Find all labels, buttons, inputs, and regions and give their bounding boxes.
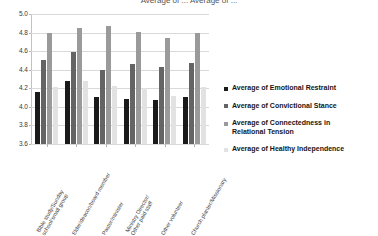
y-tick-mark — [29, 51, 31, 52]
bar-group — [32, 14, 62, 144]
bar — [165, 38, 170, 144]
bar — [130, 64, 135, 144]
bar — [195, 33, 200, 144]
bar — [77, 28, 82, 144]
plot-area: 3.63.84.04.24.44.64.85.0 — [31, 14, 209, 145]
bar — [171, 96, 176, 144]
bar-group — [62, 14, 92, 144]
bar-group — [121, 14, 151, 144]
y-tick-mark — [29, 125, 31, 126]
y-tick-label: 5.0 — [19, 11, 28, 18]
y-tick-label: 4.0 — [19, 104, 28, 111]
y-tick-mark — [29, 107, 31, 108]
bar — [94, 97, 99, 144]
bar — [201, 87, 206, 144]
legend-label: Average of Connectedness inRelational Te… — [232, 119, 330, 136]
legend-swatch-icon — [224, 148, 228, 152]
bar — [189, 63, 194, 144]
category-label: Ministry Director/Other paid staff — [125, 193, 157, 236]
legend-label: Average of Healthy Independence — [232, 145, 344, 154]
bar — [47, 33, 52, 144]
bar-groups — [32, 14, 209, 144]
category-label: Other volunteer — [160, 200, 185, 236]
bar — [159, 67, 164, 144]
bar — [41, 60, 46, 144]
y-tick-label: 4.4 — [19, 66, 28, 73]
y-tick-label: 4.6 — [19, 48, 28, 55]
bar — [65, 81, 70, 144]
legend-swatch-icon — [224, 104, 228, 108]
y-tick-mark — [29, 33, 31, 34]
legend: Average of Emotional RestraintAverage of… — [224, 84, 376, 163]
bar — [100, 70, 105, 144]
bar — [35, 92, 40, 144]
bar — [183, 97, 188, 144]
category-label: Pastor/minister — [100, 201, 124, 236]
category-label: Bible study/Sundayschool/small group — [36, 188, 71, 236]
bar — [53, 87, 58, 144]
category-label: Church planter/Missionary — [189, 177, 227, 236]
y-tick-label: 4.2 — [19, 85, 28, 92]
legend-label: Average of Convictional Stance — [232, 102, 337, 111]
y-tick-label: 3.8 — [19, 122, 28, 129]
y-tick-mark — [29, 144, 31, 145]
legend-item[interactable]: Average of Convictional Stance — [224, 102, 376, 111]
gridline — [31, 144, 209, 145]
legend-item[interactable]: Average of Connectedness inRelational Te… — [224, 119, 376, 136]
y-tick-mark — [29, 70, 31, 71]
category-labels: Bible study/Sundayschool/small groupElde… — [31, 146, 209, 236]
clipped-title: Average of ... Average of ... — [0, 0, 378, 9]
bar — [142, 88, 147, 144]
legend-item[interactable]: Average of Healthy Independence — [224, 145, 376, 154]
bar-group — [150, 14, 180, 144]
bar-group — [91, 14, 121, 144]
bar — [71, 52, 76, 144]
bar — [106, 26, 111, 144]
legend-swatch-icon — [224, 122, 228, 126]
clipped-title-text: Average of ... Average of ... — [0, 0, 378, 5]
y-tick-mark — [29, 14, 31, 15]
bar — [83, 81, 88, 144]
y-tick-mark — [29, 88, 31, 89]
bar — [153, 100, 158, 144]
bar-chart: Average of ... Average of ... 3.63.84.04… — [0, 0, 378, 236]
legend-swatch-icon — [224, 87, 228, 91]
bar — [124, 99, 129, 144]
y-tick-label: 4.8 — [19, 29, 28, 36]
legend-label: Average of Emotional Restraint — [232, 84, 336, 93]
bar-group — [180, 14, 210, 144]
y-tick-label: 3.6 — [19, 141, 28, 148]
bar — [136, 32, 141, 144]
bar — [112, 86, 117, 144]
legend-item[interactable]: Average of Emotional Restraint — [224, 84, 376, 93]
